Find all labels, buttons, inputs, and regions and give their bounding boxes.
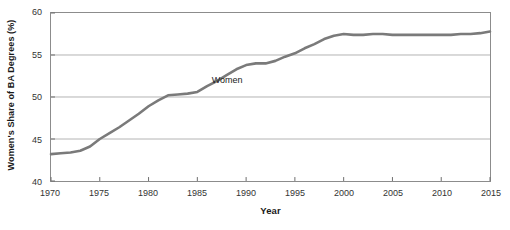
data-series-layer <box>51 13 490 181</box>
x-tick-label: 1995 <box>275 188 315 198</box>
chart-figure: Women's Share of BA Degrees (%) Women Ye… <box>0 0 510 230</box>
x-tick-label: 1985 <box>177 188 217 198</box>
x-tick-label: 1970 <box>30 188 70 198</box>
series-label-women: Women <box>212 75 243 85</box>
x-tick-label: 2015 <box>471 188 510 198</box>
plot-area <box>50 12 491 182</box>
y-tick-label: 40 <box>0 177 42 187</box>
y-tick-label: 55 <box>0 50 42 60</box>
x-tick-label: 1980 <box>128 188 168 198</box>
x-axis-title: Year <box>50 205 491 216</box>
data-line-women <box>51 31 490 154</box>
x-tick-label: 2005 <box>373 188 413 198</box>
x-tick-label: 2010 <box>422 188 462 198</box>
y-tick-label: 60 <box>0 7 42 17</box>
x-tick-label: 2000 <box>324 188 364 198</box>
x-tick-label: 1990 <box>226 188 266 198</box>
y-tick-label: 45 <box>0 135 42 145</box>
y-tick-label: 50 <box>0 92 42 102</box>
x-tick-label: 1975 <box>79 188 119 198</box>
